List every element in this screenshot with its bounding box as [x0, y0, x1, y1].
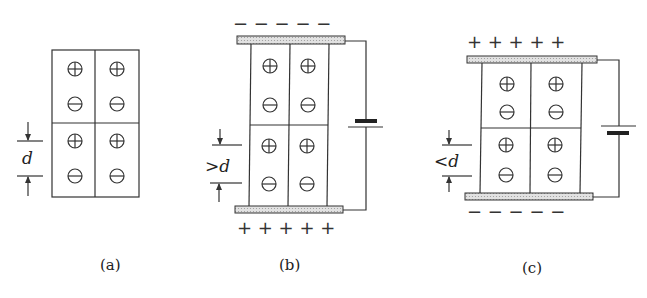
positive-charge-icon: [263, 59, 277, 73]
top-plate-charges: + + + + +: [467, 31, 565, 52]
negative-charge-icon: [301, 98, 315, 112]
positive-charge-icon: [68, 134, 82, 148]
spacing-label: >d: [205, 156, 230, 176]
positive-charge-icon: [262, 139, 276, 153]
battery-icon: [607, 131, 629, 135]
positive-charge-icon: [110, 62, 124, 76]
negative-charge-icon: [68, 97, 82, 111]
caption-b: (b): [279, 256, 300, 274]
piezoelectric-figure: d (a) − − − − − >d + + + + + (b): [0, 0, 647, 298]
positive-charge-icon: [500, 77, 514, 91]
bottom-plate-charges: + + + + +: [237, 217, 335, 238]
negative-charge-icon: [110, 97, 124, 111]
panel-c: + + + + + <d − − − − − (c): [434, 31, 636, 277]
negative-charge-icon: [262, 177, 276, 191]
negative-charge-icon: [300, 177, 314, 191]
top-electrode-plate: [467, 56, 597, 63]
negative-charge-icon: [68, 169, 82, 183]
wire: [345, 41, 366, 120]
spacing-label: d: [22, 148, 33, 168]
negative-charge-icon: [500, 105, 514, 119]
positive-charge-icon: [68, 62, 82, 76]
positive-charge-icon: [300, 139, 314, 153]
top-electrode-plate: [237, 36, 345, 44]
spacing-label: <d: [434, 151, 459, 171]
positive-charge-icon: [548, 138, 562, 152]
positive-charge-icon: [499, 138, 513, 152]
panel-a: d (a): [17, 50, 139, 274]
negative-charge-icon: [549, 105, 563, 119]
negative-charge-icon: [110, 169, 124, 183]
positive-charge-icon: [301, 59, 315, 73]
bottom-electrode-plate: [465, 193, 593, 200]
negative-charge-icon: [499, 168, 513, 182]
panel-b: − − − − − >d + + + + + (b): [205, 13, 383, 274]
positive-charge-icon: [110, 134, 124, 148]
negative-charge-icon: [548, 168, 562, 182]
wire: [597, 60, 619, 126]
caption-c: (c): [522, 259, 542, 277]
bottom-plate-charges: − − − − −: [467, 201, 565, 222]
positive-charge-icon: [549, 77, 563, 91]
negative-charge-icon: [263, 98, 277, 112]
bottom-electrode-plate: [235, 206, 343, 213]
top-plate-charges: − − − − −: [233, 13, 331, 34]
battery-icon: [355, 119, 377, 123]
caption-a: (a): [100, 256, 121, 274]
